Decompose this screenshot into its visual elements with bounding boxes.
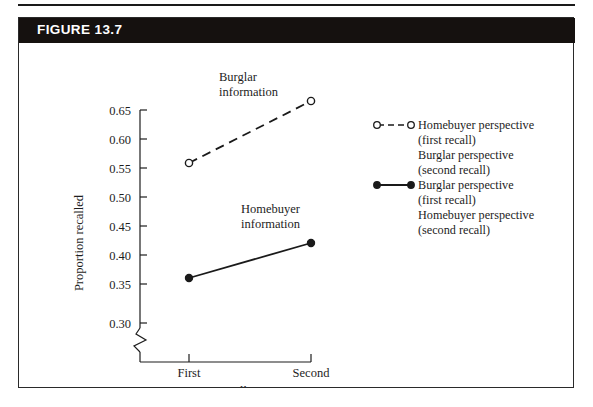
legend-filled-circle-left — [374, 182, 381, 189]
figure-frame: FIGURE 13.7 Proportion recalled 0.65 0.6… — [18, 17, 574, 388]
y-tick-label: 0.35 — [109, 278, 131, 292]
x-tick-label-second: Second — [293, 366, 331, 380]
y-tick-label: 0.60 — [109, 133, 131, 147]
legend-entry-1-line-1: Homebuyer perspective — [418, 118, 534, 132]
series-dashed-point-first — [185, 159, 192, 166]
legend-filled-circle-right — [408, 182, 415, 189]
y-tick-label: 0.45 — [109, 220, 131, 234]
annotation-line-2: information — [219, 85, 279, 99]
annotation-burglar-information: Burglar information — [219, 70, 279, 99]
series-dashed-point-second — [307, 97, 314, 104]
x-axis-title: Recall — [215, 384, 247, 387]
y-axis-ticks — [140, 110, 147, 323]
y-axis-title: Proportion recalled — [72, 194, 86, 291]
figure-number-label: FIGURE 13.7 — [37, 22, 122, 37]
annotation-line-1: Homebuyer — [241, 202, 301, 216]
chart-legend: Homebuyer perspective (first recall) Bur… — [374, 118, 534, 237]
y-axis-tick-labels: 0.65 0.60 0.55 0.50 0.45 0.40 0.35 0.30 — [109, 104, 131, 331]
annotation-line-2: information — [241, 217, 301, 231]
legend-entry-1-line-4: (second recall) — [418, 163, 490, 177]
legend-entry-1-line-3: Burglar perspective — [418, 148, 514, 162]
annotation-homebuyer-information: Homebuyer information — [241, 202, 301, 231]
x-tick-label-first: First — [178, 366, 201, 380]
series-solid-point-second — [307, 239, 314, 246]
series-solid-line — [189, 243, 311, 278]
y-tick-label: 0.55 — [109, 162, 131, 176]
legend-marker-filled-circle-solid — [374, 182, 415, 189]
legend-open-circle-right — [408, 122, 415, 129]
chart-plot-area: Proportion recalled 0.65 0.60 0.55 0.50 … — [19, 43, 575, 387]
x-axis-ticks — [189, 354, 311, 362]
series-solid-point-first — [185, 274, 192, 281]
legend-open-circle-left — [374, 122, 381, 129]
y-tick-label: 0.30 — [109, 317, 131, 331]
legend-entry-1-line-2: (first recall) — [418, 133, 476, 147]
legend-entry-2-line-4: (second recall) — [418, 223, 490, 237]
page-top-rule — [18, 4, 575, 6]
y-tick-label: 0.50 — [109, 191, 131, 205]
y-axis-break-zigzag — [134, 328, 146, 352]
y-tick-label: 0.65 — [109, 104, 131, 118]
figure-header-bar: FIGURE 13.7 — [19, 18, 575, 43]
y-tick-label: 0.40 — [109, 249, 131, 263]
chart-svg: Proportion recalled 0.65 0.60 0.55 0.50 … — [19, 43, 575, 387]
legend-entry-2-line-1: Burglar perspective — [418, 178, 514, 192]
annotation-line-1: Burglar — [219, 70, 258, 84]
legend-marker-open-circle-dashed — [374, 122, 415, 129]
legend-entry-2-line-2: (first recall) — [418, 193, 476, 207]
series-dashed-line — [189, 101, 311, 163]
legend-entry-2-line-3: Homebuyer perspective — [418, 208, 534, 222]
